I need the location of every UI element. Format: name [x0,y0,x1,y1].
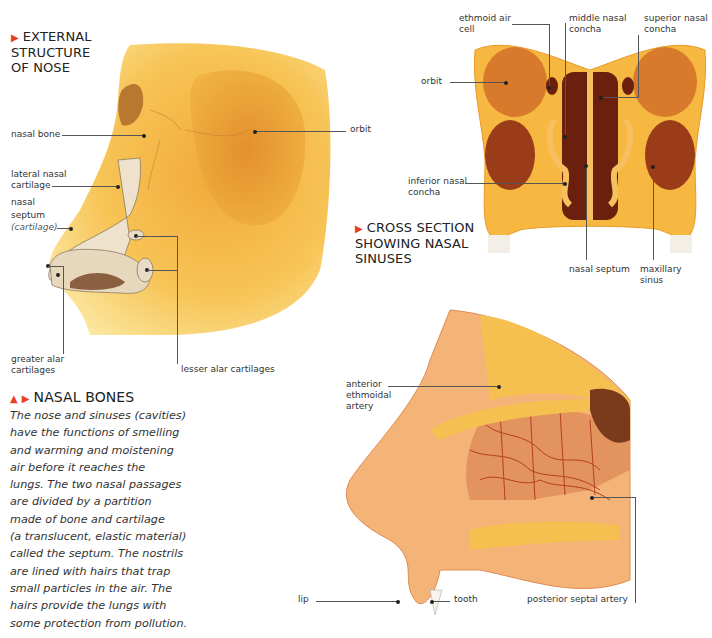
leader-line [600,97,639,98]
leader-line [638,35,639,98]
pointer-dot [116,185,120,189]
pointer-dot [599,96,603,100]
leader-line [62,135,143,136]
leader-line [549,24,550,87]
pointer-dot [651,165,655,169]
pointer-dot [547,86,551,90]
label-orbit-cross-section: orbit [421,76,442,87]
pointer-dot [430,600,434,604]
label-inferior-nasal-concha: inferior nasal concha [408,176,467,198]
label-ethmoid-air-cell: ethmoid air cell [459,13,511,35]
triangle-right-icon: ▶ [11,32,19,43]
leader-line [653,167,654,260]
cross-section-illustration [470,30,710,260]
pointer-dot [590,496,594,500]
triangle-right-icon: ▶ [22,393,30,404]
leader-line [52,186,118,187]
leader-line [316,601,398,602]
cross-section-title: ▶CROSS SECTION SHOWING NASAL SINUSES [355,220,474,266]
leader-line [512,24,549,25]
label-lesser-alar-cartilages: lesser alar cartilages [181,364,275,375]
leader-line [565,23,566,137]
label-tooth: tooth [454,594,478,605]
pointer-dot [69,227,73,231]
pointer-dot [497,385,501,389]
pointer-dot [142,134,146,138]
label-posterior-septal-artery: posterior septal artery [527,594,628,605]
leader-line [136,236,178,237]
label-middle-nasal-concha: middle nasal concha [569,13,627,35]
pointer-dot [253,130,257,134]
leader-line [63,266,64,354]
leader-line [450,82,505,83]
nasal-bones-title: ▲▶NASAL BONES [10,390,134,406]
label-orbit-external: orbit [350,124,371,135]
label-maxillary-sinus: maxillary sinus [640,264,682,286]
leader-line [177,236,178,364]
pointer-dot [56,273,60,277]
label-superior-nasal-concha: superior nasal concha [644,13,708,35]
label-nasal-bone: nasal bone [11,129,60,140]
leader-line [48,266,64,267]
triangle-up-icon: ▲ [10,393,18,404]
label-greater-alar-cartilages: greater alar cartilages [11,354,64,376]
sagittal-section-illustration [330,300,690,620]
nasal-bones-description: The nose and sinuses (cavities) have the… [10,407,220,632]
leader-line [465,183,565,184]
pointer-dot [584,164,588,168]
pointer-dot [396,600,400,604]
label-anterior-ethmoidal-artery: anterior ethmoidal artery [346,379,391,412]
label-nasal-septum-cross: nasal septum [569,264,630,275]
leader-line [256,131,346,132]
pointer-dot [504,81,508,85]
leader-line [592,497,636,498]
leader-line [147,270,178,271]
leader-line [586,165,587,260]
triangle-right-icon: ▶ [355,223,363,234]
leader-line [432,601,450,602]
pointer-dot [563,135,567,139]
leader-line [388,386,498,387]
label-nasal-septum: nasal septum (cartilage) [11,196,57,234]
leader-line [635,497,636,603]
label-lip: lip [298,594,309,605]
pointer-dot [563,182,567,186]
label-lateral-nasal-cartilage: lateral nasal cartilage [11,169,67,191]
external-structure-title: ▶EXTERNAL STRUCTURE OF NOSE [11,29,92,75]
